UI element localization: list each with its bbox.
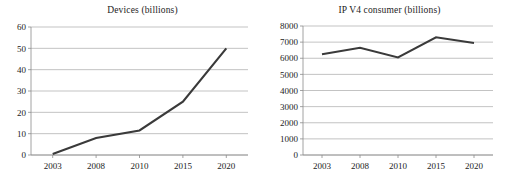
y-tick-label: 8000: [280, 21, 299, 31]
x-tick-label: 2020: [217, 161, 236, 171]
x-tick-label: 2003: [44, 161, 63, 171]
y-tick-label: 3000: [280, 102, 299, 112]
data-series-line: [322, 37, 474, 57]
y-tick-label: 50: [17, 44, 27, 54]
chart-panel-ipv4: IP V4 consumer (billions) 01000200030004…: [253, 0, 506, 183]
x-tick-label: 2008: [87, 161, 106, 171]
plot-area-devices: 010203040506020032008201020152020: [0, 0, 253, 183]
x-tick-label: 2015: [174, 161, 193, 171]
x-tick-label: 2020: [465, 161, 484, 171]
x-tick-label: 2003: [313, 161, 332, 171]
chart-panel-devices: Devices (billions) 010203040506020032008…: [0, 0, 253, 183]
x-tick-label: 2010: [131, 161, 150, 171]
y-tick-label: 30: [17, 86, 27, 96]
data-series-line: [53, 48, 227, 154]
y-tick-label: 1000: [280, 134, 299, 144]
y-tick-label: 40: [17, 65, 27, 75]
plot-area-ipv4: 0100020003000400050006000700080002003200…: [253, 0, 506, 183]
y-tick-label: 60: [17, 22, 27, 32]
y-tick-label: 6000: [280, 53, 299, 63]
y-tick-label: 4000: [280, 86, 299, 96]
y-tick-label: 0: [22, 150, 27, 160]
x-tick-label: 2015: [427, 161, 446, 171]
x-tick-label: 2008: [351, 161, 370, 171]
two-panel-line-chart-figure: Devices (billions) 010203040506020032008…: [0, 0, 506, 183]
y-tick-label: 2000: [280, 118, 299, 128]
y-tick-label: 0: [294, 150, 299, 160]
y-tick-label: 5000: [280, 70, 299, 80]
y-tick-label: 20: [17, 108, 27, 118]
x-tick-label: 2010: [389, 161, 408, 171]
y-tick-label: 10: [17, 129, 27, 139]
y-tick-label: 7000: [280, 37, 299, 47]
